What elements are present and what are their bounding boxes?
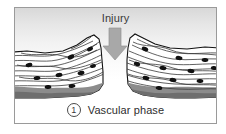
figure-wound-healing-vascular-phase: Injury	[0, 0, 226, 134]
right-tissue-flap	[125, 34, 217, 100]
caption-label: Vascular phase	[88, 104, 164, 116]
caption: 1 Vascular phase	[15, 103, 216, 117]
left-tissue-flap	[15, 35, 105, 100]
injury-force-arrow	[103, 28, 127, 60]
arrow-down-icon	[103, 28, 127, 60]
caption-number-badge: 1	[67, 103, 81, 117]
figure-frame: Injury	[14, 7, 217, 124]
